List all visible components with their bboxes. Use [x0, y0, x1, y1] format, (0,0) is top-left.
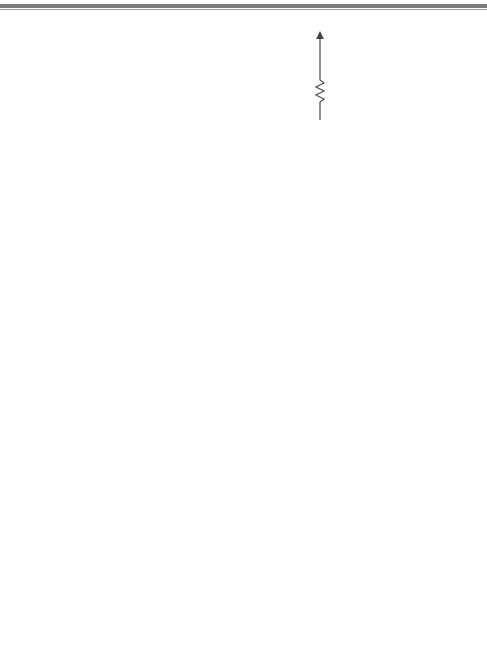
schematics [0, 0, 487, 647]
colpitts-circuit [316, 35, 324, 120]
rd-resistor-icon [316, 75, 324, 105]
